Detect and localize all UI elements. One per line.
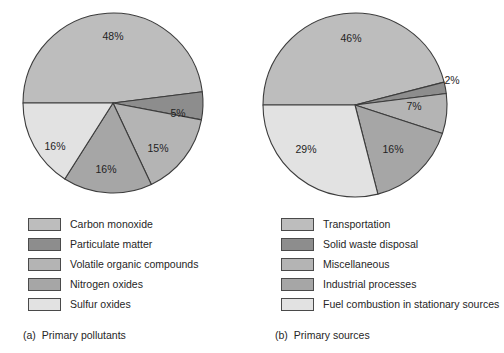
pie-slice-label: 29% — [295, 143, 316, 155]
legend-label: Particulate matter — [70, 238, 152, 251]
panel-primary-sources: 46%2%7%16%29% TransportationSolid waste … — [249, 0, 498, 353]
caption-a: (a)Primary pollutants — [23, 329, 126, 341]
pie-chart-a-wrapper: 48%5%15%16%16% — [0, 0, 249, 205]
pie-slice-label: 2% — [444, 74, 459, 86]
legend-a: Carbon monoxideParticulate matterVolatil… — [28, 215, 258, 315]
panel-primary-pollutants: 48%5%15%16%16% Carbon monoxideParticulat… — [0, 0, 249, 353]
pie-slice-label: 46% — [340, 32, 361, 44]
legend-label: Fuel combustion in stationary sources — [323, 298, 499, 311]
pie-slice — [23, 13, 202, 103]
legend-label: Industrial processes — [323, 278, 416, 291]
pie-slice-label: 16% — [95, 163, 116, 175]
legend-label: Miscellaneous — [323, 258, 390, 271]
legend-swatch — [28, 298, 61, 311]
legend-item: Industrial processes — [281, 275, 504, 294]
legend-item: Fuel combustion in stationary sources — [281, 295, 504, 314]
legend-label: Nitrogen oxides — [70, 278, 143, 291]
pie-slice-label: 5% — [170, 107, 185, 119]
pie-slice-label: 15% — [147, 142, 168, 154]
pie-chart-a: 48%5%15%16%16% — [0, 0, 249, 205]
legend-swatch — [28, 218, 61, 231]
legend-item: Solid waste disposal — [281, 235, 504, 254]
legend-item: Nitrogen oxides — [28, 275, 258, 294]
legend-item: Volatile organic compounds — [28, 255, 258, 274]
legend-swatch — [281, 258, 314, 271]
caption-a-text: Primary pollutants — [42, 329, 126, 341]
legend-label: Carbon monoxide — [70, 218, 153, 231]
legend-item: Particulate matter — [28, 235, 258, 254]
legend-item: Sulfur oxides — [28, 295, 258, 314]
legend-swatch — [281, 298, 314, 311]
legend-swatch — [281, 278, 314, 291]
legend-swatch — [28, 278, 61, 291]
legend-label: Sulfur oxides — [70, 298, 131, 311]
pie-chart-b-wrapper: 46%2%7%16%29% — [249, 0, 498, 205]
legend-label: Volatile organic compounds — [70, 258, 198, 271]
pie-chart-b: 46%2%7%16%29% — [249, 0, 498, 205]
caption-b-tag: (b) — [275, 329, 288, 341]
legend-swatch — [281, 238, 314, 251]
legend-item: Miscellaneous — [281, 255, 504, 274]
pie-slice-label: 16% — [382, 143, 403, 155]
pie-slice-label: 16% — [44, 140, 65, 152]
legend-swatch — [28, 258, 61, 271]
pie-slice-label: 48% — [102, 30, 123, 42]
legend-label: Solid waste disposal — [323, 238, 418, 251]
caption-a-tag: (a) — [23, 329, 36, 341]
legend-label: Transportation — [323, 218, 390, 231]
caption-b: (b)Primary sources — [275, 329, 370, 341]
caption-b-text: Primary sources — [294, 329, 370, 341]
pie-slice-label: 7% — [406, 100, 421, 112]
legend-item: Carbon monoxide — [28, 215, 258, 234]
legend-b: TransportationSolid waste disposalMiscel… — [281, 215, 504, 315]
legend-swatch — [281, 218, 314, 231]
legend-swatch — [28, 238, 61, 251]
legend-item: Transportation — [281, 215, 504, 234]
